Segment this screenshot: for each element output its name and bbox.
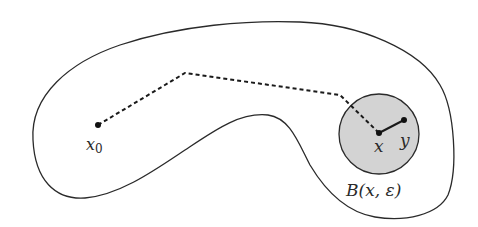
label-y: y <box>399 130 410 150</box>
ball-diagram: x0 x y B(x, ε) <box>0 0 478 227</box>
label-x0: x0 <box>86 135 103 156</box>
label-x0-main: x <box>86 135 95 154</box>
label-x: x <box>374 136 384 156</box>
label-x0-sub: 0 <box>95 142 103 156</box>
label-ball: B(x, ε) <box>345 180 401 200</box>
point-y <box>401 117 407 123</box>
point-x0 <box>95 122 101 128</box>
dashed-path-x0-to-x <box>98 73 379 133</box>
